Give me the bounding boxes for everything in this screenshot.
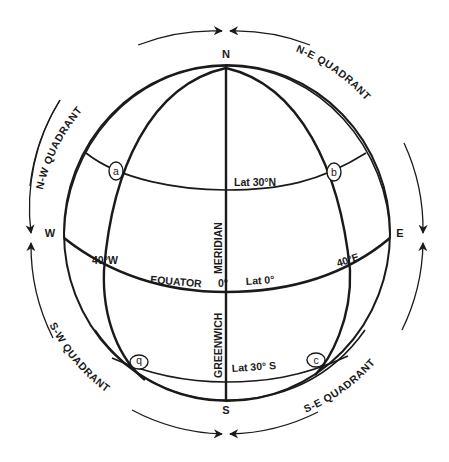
point-b-north: b — [327, 163, 341, 181]
lat-0-label: Lat 0° — [245, 273, 274, 287]
globe — [64, 65, 390, 401]
lat-30n-label: Lat 30°N — [234, 176, 276, 188]
meridian-zero-label: 0° — [218, 277, 228, 289]
point-a: a — [109, 162, 123, 180]
meridian-40e-line — [226, 68, 350, 375]
point-b-south: b — [130, 355, 148, 369]
south-label: S — [222, 404, 229, 416]
east-label: E — [396, 227, 403, 239]
equator-label: EQUATOR — [150, 273, 203, 289]
point-c: c — [307, 353, 325, 367]
svg-text:b: b — [136, 356, 142, 368]
quadrant-label-sw: S-W QUADRANT — [48, 320, 113, 394]
svg-text:b: b — [331, 166, 337, 178]
meridian-40w-line — [104, 68, 226, 380]
greenwich-label: GREENWICH — [212, 313, 224, 378]
quadrant-label-nw: N-W QUADRANT — [33, 104, 84, 191]
north-label: N — [222, 48, 230, 60]
svg-text:a: a — [113, 165, 119, 177]
svg-text:c: c — [313, 354, 318, 366]
west-label: W — [45, 227, 56, 239]
quadrant-label-ne: N-E QUADRANT — [295, 42, 374, 102]
lon-40w-label: 40°W — [92, 254, 118, 266]
lat-30s-label: Lat 30° S — [231, 359, 276, 374]
meridian-label: MERIDIAN — [212, 222, 224, 274]
globe-diagram: N-W QUADRANT N-E QUADRANT S-W QUADRANT S… — [0, 0, 449, 462]
